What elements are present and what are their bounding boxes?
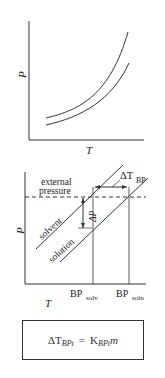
delta-t-label: ΔT [120, 170, 134, 181]
eq-equals: = [79, 334, 85, 346]
top-curve-lower [46, 63, 129, 125]
top-diagram: P T [16, 21, 144, 156]
delta-p-arrowhead-top [81, 198, 85, 203]
bp-soln-sub: soln [132, 294, 144, 302]
eq-lhs: ΔT [48, 334, 62, 346]
top-x-label: T [86, 144, 93, 156]
top-curve-upper [46, 32, 128, 118]
bottom-diagram: external pressure solvent solution ΔP ΔT… [14, 165, 148, 309]
eq-lhs-sub: BPt [62, 339, 74, 348]
bottom-x-label: T [45, 297, 52, 309]
solvent-label: solvent [37, 215, 64, 241]
bp-solv-label: BP [70, 288, 83, 299]
bp-solv-sub: solv [86, 294, 98, 302]
delta-p-arrowhead-bottom [81, 223, 85, 228]
bottom-y-label: P [14, 227, 26, 235]
eq-rhs: K [90, 334, 98, 346]
top-y-label: P [16, 71, 28, 79]
equation-box: ΔTBPt = KBPtm [22, 320, 144, 360]
solution-line [60, 178, 148, 262]
bp-soln-label: BP [116, 288, 129, 299]
delta-t-leader [112, 180, 120, 187]
external-label-2: pressure [39, 186, 71, 196]
delta-t-arrowhead-left [95, 185, 100, 189]
eq-rhs-var: m [110, 334, 118, 346]
delta-t-sub: BP [136, 176, 146, 185]
delta-t-arrowhead-right [122, 185, 127, 189]
eq-rhs-sub: BPt [98, 339, 110, 348]
delta-p-label: ΔP [88, 210, 98, 223]
